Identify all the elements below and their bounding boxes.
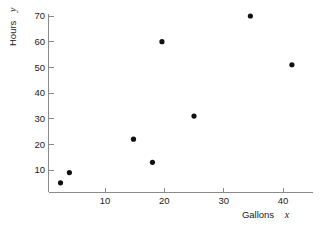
x-tick-label: 10 (100, 195, 111, 206)
y-axis-ticks: 10203040506070 (34, 10, 53, 175)
data-point (131, 137, 136, 142)
data-point (289, 62, 294, 67)
y-tick-label: 20 (34, 139, 45, 150)
y-tick-label: 10 (34, 164, 45, 175)
plot-canvas: 10203040506070 10203040 Hours y Gallons … (0, 0, 323, 233)
y-tick-label: 30 (34, 113, 45, 124)
y-tick-label: 60 (34, 36, 45, 47)
y-axis-title-variable: y (7, 7, 18, 13)
y-axis-title: Hours y (7, 7, 18, 46)
data-point (191, 114, 196, 119)
y-tick-label: 40 (34, 87, 45, 98)
x-tick-label: 30 (218, 195, 229, 206)
data-point (150, 160, 155, 165)
data-point (58, 180, 63, 185)
x-tick-label: 40 (278, 195, 289, 206)
scatter-plot-figure: 10203040506070 10203040 Hours y Gallons … (0, 0, 323, 233)
x-axis-title: Gallons x (242, 209, 290, 220)
y-tick-label: 70 (34, 10, 45, 21)
axes-group (49, 14, 314, 193)
data-point (248, 13, 253, 18)
y-axis-title-text: Hours (7, 20, 18, 46)
data-point (159, 39, 164, 44)
y-tick-label: 50 (34, 62, 45, 73)
data-point (67, 170, 72, 175)
x-axis-title-variable: x (284, 209, 290, 220)
x-axis-ticks: 10203040 (100, 188, 289, 207)
x-tick-label: 20 (159, 195, 170, 206)
data-points-group (58, 13, 295, 185)
x-axis-title-text: Gallons (242, 209, 274, 220)
